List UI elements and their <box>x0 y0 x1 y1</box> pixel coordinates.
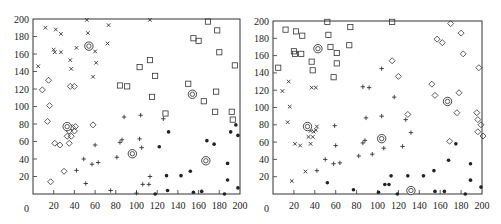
centroid-marker <box>377 134 385 142</box>
data-point <box>191 36 196 41</box>
data-point <box>283 27 288 32</box>
x-tick-label: 140 <box>412 200 427 211</box>
right-scatter: 0204060801001201401601802002040608010012… <box>254 16 490 215</box>
data-point <box>469 178 473 182</box>
data-point <box>456 90 462 96</box>
data-point <box>117 83 122 88</box>
data-point <box>432 92 438 98</box>
data-point <box>61 168 67 174</box>
data-point <box>74 168 78 172</box>
centroid-marker <box>63 122 71 130</box>
data-point <box>443 190 447 194</box>
x-tick-label: 180 <box>454 200 469 211</box>
centroid-marker <box>443 97 451 105</box>
data-point <box>281 89 285 93</box>
series-cluster-plus <box>74 113 165 195</box>
data-point <box>293 29 298 34</box>
data-point <box>48 179 54 185</box>
data-point <box>447 138 453 144</box>
data-point <box>347 43 352 48</box>
data-point <box>361 141 365 145</box>
data-point <box>348 24 353 29</box>
data-point <box>323 157 327 161</box>
data-point <box>192 190 196 194</box>
x-tick-label: 140 <box>170 200 185 211</box>
data-point <box>179 174 183 178</box>
data-point <box>276 65 281 70</box>
y-tick-label: 120 <box>14 84 29 95</box>
data-point <box>379 66 383 70</box>
data-point <box>429 81 435 87</box>
data-point <box>47 103 53 109</box>
data-point <box>108 188 112 192</box>
data-point <box>326 181 330 185</box>
x-tick-label: 60 <box>90 200 100 211</box>
data-point <box>189 169 193 173</box>
data-point <box>334 61 339 66</box>
data-point <box>405 111 411 117</box>
data-point <box>46 77 52 83</box>
data-point <box>404 117 408 121</box>
data-point <box>476 65 482 71</box>
data-point <box>454 110 460 116</box>
data-point <box>298 144 302 148</box>
data-point <box>75 46 79 50</box>
x-tick-label: 40 <box>310 200 320 211</box>
data-point <box>157 145 161 149</box>
data-point <box>454 142 458 146</box>
y-tick-label: 200 <box>254 16 269 27</box>
data-point <box>86 31 90 35</box>
data-point <box>458 30 464 36</box>
data-point <box>479 185 483 189</box>
data-point <box>447 158 451 162</box>
data-point <box>147 58 152 63</box>
data-point <box>377 190 381 194</box>
data-point <box>236 134 240 138</box>
data-point <box>300 33 305 38</box>
data-point <box>138 113 142 117</box>
data-point <box>379 114 383 118</box>
y-tick-label: 120 <box>254 85 269 96</box>
data-point <box>311 135 315 139</box>
data-point <box>217 50 222 55</box>
x-tick-label: 200 <box>475 200 490 211</box>
x-tick-label: 120 <box>150 200 165 211</box>
series-cluster-dot <box>153 123 239 196</box>
data-point <box>149 94 154 99</box>
data-point <box>288 105 292 109</box>
data-point <box>212 142 216 146</box>
series-cluster-plus <box>315 66 413 172</box>
data-point <box>106 42 110 46</box>
data-point <box>370 152 374 156</box>
data-point <box>226 178 230 182</box>
y-tick-label: 180 <box>254 33 269 44</box>
data-point <box>236 186 240 190</box>
data-point <box>475 117 481 123</box>
data-point <box>59 32 63 36</box>
data-point <box>67 83 73 89</box>
data-point <box>480 133 486 139</box>
data-point <box>304 170 308 174</box>
data-point <box>205 139 209 143</box>
data-point <box>396 192 400 196</box>
data-point <box>234 123 238 127</box>
data-point <box>141 182 145 186</box>
data-point <box>409 130 413 134</box>
data-point <box>469 162 473 166</box>
data-point <box>331 75 336 80</box>
data-point <box>166 189 170 193</box>
y-tick-label: 80 <box>259 119 269 130</box>
y-tick-label: 140 <box>254 67 269 78</box>
data-point <box>94 61 98 65</box>
left-scatter: 0204060801001201401601802002040608010012… <box>14 14 248 215</box>
data-point <box>328 44 333 49</box>
data-point <box>352 188 356 192</box>
data-point <box>392 95 396 99</box>
data-point <box>332 123 336 127</box>
y-tick-label: 140 <box>14 66 29 77</box>
data-point <box>229 130 233 134</box>
series-cluster-dot <box>326 142 483 196</box>
data-point <box>299 51 304 56</box>
y-tick-label: 40 <box>19 154 29 165</box>
series-cluster-square <box>276 19 395 80</box>
